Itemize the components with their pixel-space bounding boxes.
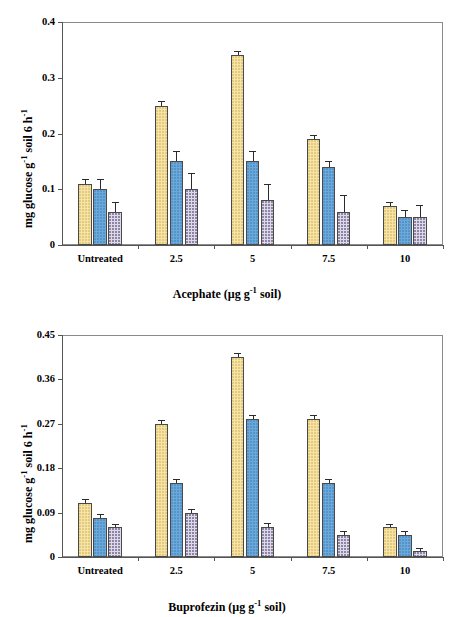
x-tick-a-4 (443, 245, 444, 249)
y-axis-title-b: mg glucose g-1 soil 6 h-1 (22, 424, 34, 543)
y-tick-label-b-4: 0.36 (15, 374, 55, 385)
bar-b-2-1 (246, 419, 260, 557)
error-cap-a-1-0 (158, 101, 165, 102)
x-axis-title-b: Buprofezin (µg g-1 soil) (0, 601, 454, 613)
figure-root: mg glucose g-1 soil 6 h-1 a Single appli… (0, 0, 454, 617)
error-cap-a-1-2 (188, 173, 195, 174)
bar-b-3-1 (322, 483, 336, 557)
plot-area-b: mg glucose g-1 soil 6 h-1 b Single appli… (0, 305, 454, 617)
chart-panel-b: mg glucose g-1 soil 6 h-1 b Single appli… (0, 305, 454, 617)
plot-area-a: mg glucose g-1 soil 6 h-1 a Single appli… (0, 0, 454, 310)
bar-b-3-2 (337, 535, 351, 557)
x-axis-line-b (62, 557, 443, 558)
bar-a-0-0 (78, 184, 92, 245)
bar-b-2-0 (231, 357, 245, 557)
x-tick-label-b-4: 10 (360, 566, 450, 577)
error-cap-a-4-0 (386, 202, 393, 203)
y-tick-label-a-4: 0.4 (15, 17, 55, 28)
error-cap-b-1-2 (188, 509, 195, 510)
error-cap-a-4-2 (416, 205, 423, 206)
bar-a-2-2 (261, 200, 275, 245)
error-cap-b-3-2 (340, 531, 347, 532)
bar-a-3-2 (337, 212, 351, 245)
error-cap-b-4-2 (416, 548, 423, 549)
error-cap-a-1-1 (173, 151, 180, 152)
y-tick-label-b-2: 0.18 (15, 463, 55, 474)
bar-b-0-2 (108, 527, 122, 557)
bar-a-1-1 (170, 161, 184, 245)
y-tick-label-b-1: 0.09 (15, 508, 55, 519)
bar-b-4-0 (383, 527, 397, 557)
error-cap-b-0-0 (82, 499, 89, 500)
y-tick-label-a-1: 0.1 (15, 184, 55, 195)
bar-b-2-2 (261, 527, 275, 557)
error-cap-a-0-2 (112, 202, 119, 203)
error-cap-a-4-1 (401, 210, 408, 211)
y-tick-label-a-2: 0.2 (15, 129, 55, 140)
y-tick-label-b-5: 0.45 (15, 330, 55, 341)
error-cap-a-2-2 (264, 184, 271, 185)
error-bar-a-2-2 (268, 184, 269, 201)
error-cap-b-2-1 (249, 415, 256, 416)
x-axis-line-a (62, 245, 443, 246)
error-cap-b-2-0 (234, 353, 241, 354)
error-bar-a-4-2 (420, 205, 421, 217)
y-tick-label-a-3: 0.3 (15, 73, 55, 84)
error-cap-b-4-0 (386, 524, 393, 525)
bar-a-4-2 (413, 217, 427, 245)
error-bar-a-2-1 (253, 151, 254, 162)
y-axis-title-a: mg glucose g-1 soil 6 h-1 (22, 109, 34, 228)
bar-a-3-1 (322, 167, 336, 245)
error-cap-a-2-1 (249, 151, 256, 152)
x-tick-b-4 (443, 557, 444, 561)
x-axis-title-a: Acephate (µg g-1 soil) (0, 288, 454, 300)
error-cap-b-0-2 (112, 524, 119, 525)
error-cap-a-2-0 (234, 51, 241, 52)
bar-b-1-1 (170, 483, 184, 557)
bar-a-0-1 (93, 189, 107, 245)
error-cap-b-1-1 (173, 479, 180, 480)
error-cap-b-1-0 (158, 420, 165, 421)
error-cap-b-3-0 (310, 415, 317, 416)
error-cap-a-0-1 (97, 179, 104, 180)
bar-a-4-0 (383, 206, 397, 245)
bar-b-0-1 (93, 518, 107, 557)
chart-panel-a: mg glucose g-1 soil 6 h-1 a Single appli… (0, 0, 454, 310)
y-tick-label-a-0: 0 (15, 240, 55, 251)
y-axis-line-b (62, 335, 63, 557)
error-bar-a-4-1 (405, 210, 406, 217)
error-bar-a-3-2 (344, 195, 345, 211)
error-cap-a-3-1 (325, 161, 332, 162)
bar-a-3-0 (307, 139, 321, 245)
error-cap-a-3-2 (340, 195, 347, 196)
y-tick-label-b-0: 0 (15, 552, 55, 563)
y-axis-line-a (62, 22, 63, 245)
bar-a-2-0 (231, 55, 245, 245)
error-bar-a-1-2 (191, 173, 192, 190)
bar-a-4-1 (398, 217, 412, 245)
x-tick-label-a-4: 10 (360, 254, 450, 265)
error-bar-a-1-1 (176, 151, 177, 161)
error-cap-b-2-2 (264, 523, 271, 524)
bar-a-2-1 (246, 161, 260, 245)
bar-b-1-0 (155, 424, 169, 557)
error-cap-b-4-1 (401, 531, 408, 532)
error-cap-b-0-1 (97, 514, 104, 515)
bar-a-1-2 (185, 189, 199, 245)
error-bar-a-0-2 (115, 202, 116, 212)
bar-a-1-0 (155, 106, 169, 245)
bar-b-4-1 (398, 535, 412, 557)
error-bar-a-0-1 (100, 179, 101, 189)
error-cap-b-3-1 (325, 479, 332, 480)
bar-b-0-0 (78, 503, 92, 557)
error-cap-a-3-0 (310, 135, 317, 136)
bar-a-0-2 (108, 212, 122, 245)
y-tick-label-b-3: 0.27 (15, 419, 55, 430)
bar-b-3-0 (307, 419, 321, 557)
bar-b-1-2 (185, 513, 199, 557)
error-cap-a-0-0 (82, 179, 89, 180)
